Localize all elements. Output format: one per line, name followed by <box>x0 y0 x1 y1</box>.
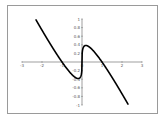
x-tick-label: 2 <box>121 63 124 68</box>
y-tick-label: -1 <box>76 103 80 108</box>
function-plot: -3-2-1012310.80.60.40.2-0.2-0.4-0.6-0.8-… <box>0 0 166 119</box>
y-tick-label: 0.6 <box>74 34 81 39</box>
y-tick-label: -0.6 <box>72 85 80 90</box>
x-tick-label: -2 <box>40 63 44 68</box>
y-tick-label: -0.8 <box>72 94 80 99</box>
y-tick-label: 0.4 <box>74 42 81 47</box>
x-tick-label: -3 <box>20 63 24 68</box>
y-tick-label: 0.8 <box>74 25 81 30</box>
y-tick-label: 0.2 <box>74 51 81 56</box>
x-tick-label: 3 <box>141 63 144 68</box>
y-tick-label: -0.2 <box>72 68 80 73</box>
